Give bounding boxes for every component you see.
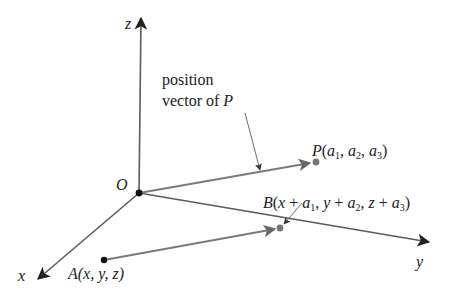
b-a2: a [347, 194, 355, 211]
annotation-line1: position [162, 71, 214, 89]
origin-label: O [116, 176, 128, 193]
y-axis-label: y [414, 253, 424, 271]
b-close: ) [405, 194, 410, 212]
z-axis [139, 18, 141, 193]
b-sep1: , [315, 194, 323, 211]
point-b [277, 225, 284, 232]
z-axis-label: z [124, 15, 132, 32]
b-plus3: + [375, 194, 392, 211]
a-name: A [67, 265, 78, 282]
p-close: ) [382, 142, 387, 160]
vector-diagram: z x y O position vector of P P(a1, a2, a… [0, 0, 470, 302]
a-coords: (x, y, z) [78, 265, 124, 283]
origin-point [136, 190, 143, 197]
point-p-label: P(a1, a2, a3) [311, 142, 387, 161]
annotation-line2: vector of P [162, 92, 233, 109]
p-a1: a [327, 142, 335, 159]
point-p [313, 159, 320, 166]
annotation-line2-var: P [222, 92, 233, 109]
p-a2: a [348, 142, 356, 159]
point-b-label: B(x + a1, y + a2, z + a3) [263, 194, 410, 213]
b-a1: a [302, 194, 310, 211]
translated-vector-ab [104, 229, 275, 260]
x-axis-label: x [17, 267, 25, 284]
b-plus1: + [285, 194, 302, 211]
p-a3: a [369, 142, 377, 159]
position-vector-p [139, 163, 310, 193]
annotation-line2-prefix: vector of [162, 92, 223, 109]
p-sep1: , [340, 142, 348, 159]
p-name: P [311, 142, 322, 159]
b-name: B [263, 194, 273, 211]
point-a-label: A(x, y, z) [67, 265, 124, 283]
b-plus2: + [330, 194, 347, 211]
b-x: x [277, 194, 285, 211]
annotation-leader [245, 113, 260, 170]
point-a [101, 257, 107, 263]
b-a3: a [392, 194, 400, 211]
b-sep2: , [360, 194, 368, 211]
p-sep2: , [361, 142, 369, 159]
